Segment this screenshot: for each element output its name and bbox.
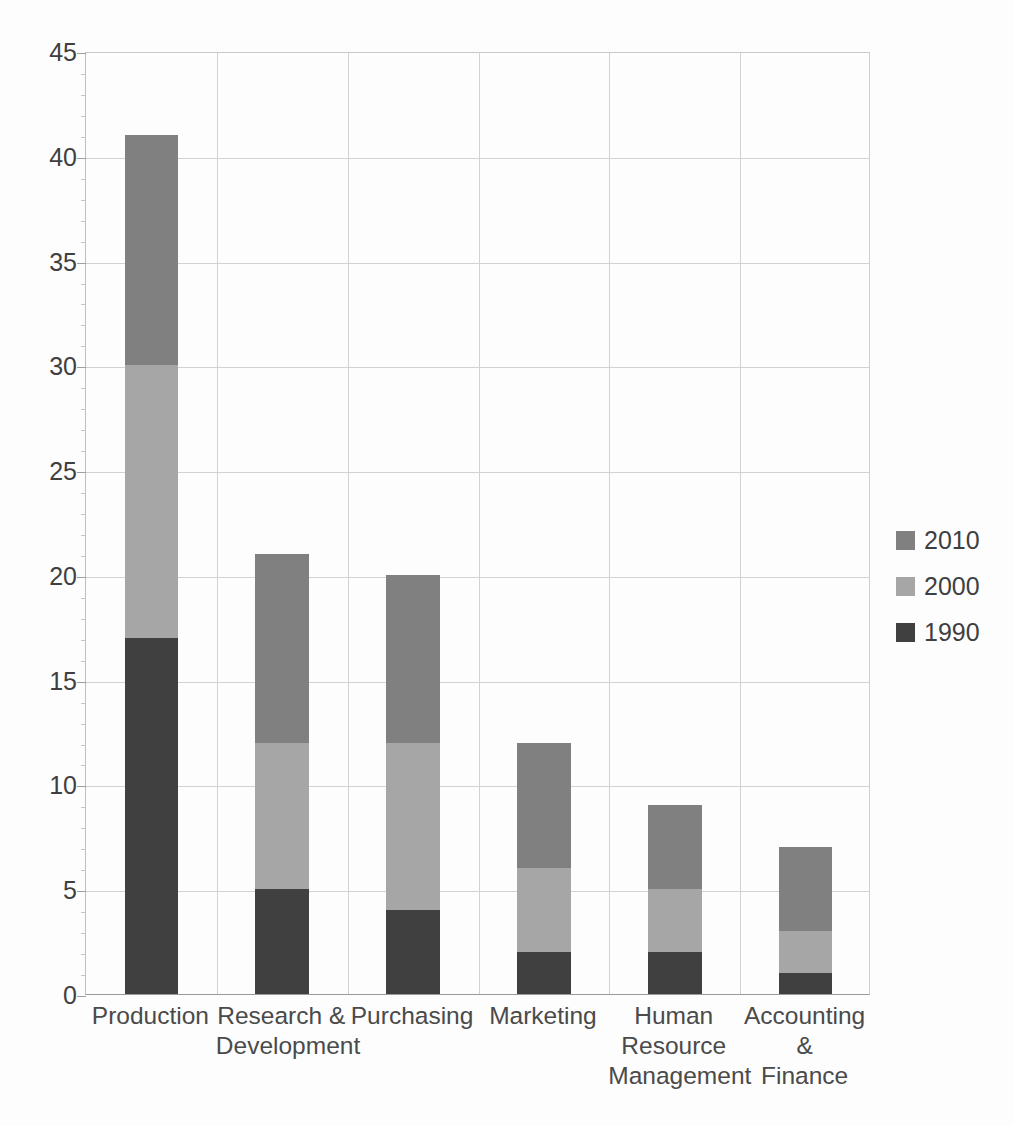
x-axis-category-labels: ProductionResearch & DevelopmentPurchasi… [85,1001,870,1121]
chart-legend: 201020001990 [896,517,980,655]
bar-segment-2010 [648,805,702,889]
bar-segment-1990 [386,910,440,994]
legend-swatch-icon [896,531,915,550]
bar-segment-1990 [648,952,702,994]
y-axis-tick-label: 25 [17,459,77,484]
legend-swatch-icon [896,577,915,596]
bar-segment-2000 [779,931,833,973]
legend-item[interactable]: 1990 [896,609,980,655]
bar-segment-2000 [648,889,702,952]
bar-segment-1990 [517,952,571,994]
y-axis-tick [77,158,86,159]
y-axis-tick [77,367,86,368]
y-axis-tick [77,53,86,54]
category-label: Purchasing [347,1001,478,1031]
y-axis-tick [77,891,86,892]
bar-segment-2000 [125,365,179,637]
category-label: Human Resource Management [608,1001,739,1091]
bar-segment-1990 [779,973,833,994]
y-axis-tick-label: 40 [17,144,77,169]
legend-label: 2010 [924,528,980,553]
legend-label: 2000 [924,574,980,599]
y-axis-tick [77,472,86,473]
y-axis-tick-label: 20 [17,563,77,588]
legend-label: 1990 [924,620,980,645]
legend-item[interactable]: 2000 [896,563,980,609]
y-axis-tick [77,577,86,578]
bar-segment-2010 [125,135,179,366]
bar-segment-2000 [255,743,309,890]
y-axis-tick-label: 30 [17,354,77,379]
bar-segment-1990 [255,889,309,994]
category-label: Marketing [478,1001,609,1031]
bars-layer [86,53,869,994]
chart-title-cutoff [0,0,1013,2]
bar-stack [125,51,179,994]
bar-stack [386,51,440,994]
bar-segment-2000 [517,868,571,952]
y-axis-tick-label: 10 [17,773,77,798]
bar-segment-1990 [125,638,179,994]
legend-item[interactable]: 2010 [896,517,980,563]
bar-stack [648,51,702,994]
bar-segment-2000 [386,743,440,911]
y-axis-tick-label: 0 [17,983,77,1008]
y-axis-tick [77,682,86,683]
category-label: Accounting & Finance [739,1001,870,1091]
y-axis-tick-label: 45 [17,40,77,65]
plot-area [85,52,870,995]
bar-stack [517,51,571,994]
y-axis-tick [77,996,86,997]
bar-segment-2010 [517,743,571,869]
y-axis-tick-label: 5 [17,878,77,903]
legend-swatch-icon [896,623,915,642]
bar-stack [255,51,309,994]
bar-segment-2010 [779,847,833,931]
y-axis-tick-label: 15 [17,668,77,693]
category-label: Production [85,1001,216,1031]
category-label: Research & Development [216,1001,347,1061]
bar-segment-2010 [386,575,440,743]
bar-segment-2010 [255,554,309,743]
y-axis-tick [77,786,86,787]
bar-stack [779,51,833,994]
stacked-bar-chart: 051015202530354045 ProductionResearch & … [0,0,1013,1126]
y-axis-tick-label: 35 [17,249,77,274]
y-axis-tick [77,263,86,264]
